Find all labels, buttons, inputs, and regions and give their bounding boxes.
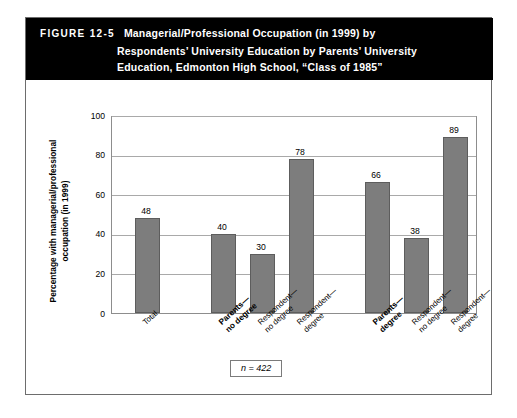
y-axis-title: Percentage with managerial/professional … (48, 118, 74, 324)
bar-value-label: 30 (245, 243, 277, 252)
bar-value-label: 38 (399, 227, 431, 236)
figure-title-text-1: Managerial/Professional Occupation (in 1… (124, 27, 376, 39)
figure-panel: FIGURE 12-5Managerial/Professional Occup… (25, 17, 492, 395)
bar-value-label: 89 (438, 126, 470, 135)
bar (211, 234, 236, 313)
figure-title-line-1: FIGURE 12-5Managerial/Professional Occup… (40, 25, 485, 43)
figure-title-line-2: Respondents’ University Education by Par… (40, 43, 485, 60)
y-axis-title-line-1: Percentage with managerial/professional (48, 118, 60, 324)
bar-value-label: 40 (206, 223, 238, 232)
bar-value-label: 48 (130, 207, 162, 216)
y-axis-tick-label: 80 (75, 151, 105, 160)
bar-value-label: 66 (360, 171, 392, 180)
y-axis-tick-label: 60 (75, 191, 105, 200)
plot-frame (111, 116, 477, 314)
gridline (112, 116, 476, 117)
figure-title-line-3: Education, Edmonton High School, “Class … (40, 59, 485, 76)
sample-size-note: n = 422 (230, 360, 282, 377)
figure-header-text: FIGURE 12-5Managerial/Professional Occup… (40, 25, 485, 76)
y-axis-title-line-2: occupation (in 1999) (60, 118, 72, 324)
chart-area: Percentage with managerial/professional … (26, 80, 493, 396)
bar (404, 238, 429, 313)
y-axis-tick-label: 20 (75, 270, 105, 279)
figure-header-band: FIGURE 12-5Managerial/Professional Occup… (26, 18, 493, 80)
y-axis-tick-label: 100 (75, 112, 105, 121)
bar (135, 218, 160, 313)
figure-number-label: FIGURE 12-5 (40, 26, 115, 43)
y-axis-tick-label: 40 (75, 230, 105, 239)
bar (365, 182, 390, 313)
y-axis-tick-label: 0 (75, 310, 105, 319)
bar-value-label: 78 (284, 148, 316, 157)
